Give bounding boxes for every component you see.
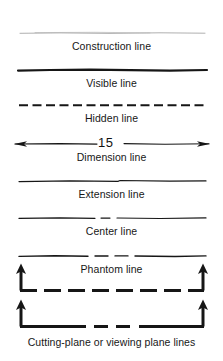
extension-line-svg (0, 174, 223, 188)
visible-line-graphic (0, 63, 223, 77)
extension-line-label: Extension line (0, 188, 223, 201)
alphabet-of-lines-sheet: Construction line Visible line Hidden li… (0, 0, 223, 361)
center-line-label: Center line (0, 225, 223, 238)
extension-line-graphic (0, 174, 223, 188)
dimension-line-label: Dimension line (0, 151, 223, 164)
cutting-plane-label: Cutting-plane or viewing plane lines (0, 336, 223, 349)
center-line-svg (0, 211, 223, 225)
cutting-plane-dashed-svg (0, 261, 223, 299)
construction-line-graphic (0, 26, 223, 40)
hidden-line-svg (0, 98, 223, 112)
center-line-graphic (0, 211, 223, 225)
dimension-value: 15 (98, 136, 113, 149)
visible-line-label: Visible line (0, 77, 223, 90)
hidden-line-graphic (0, 98, 223, 112)
hidden-line-label: Hidden line (0, 112, 223, 125)
construction-line-label: Construction line (0, 40, 223, 53)
cutting-plane-long-short-svg (0, 297, 223, 335)
visible-line-svg (0, 63, 223, 77)
construction-line-svg (0, 26, 223, 40)
cutting-plane-dashed-graphic (0, 261, 223, 299)
cutting-plane-long-short-graphic (0, 297, 223, 335)
